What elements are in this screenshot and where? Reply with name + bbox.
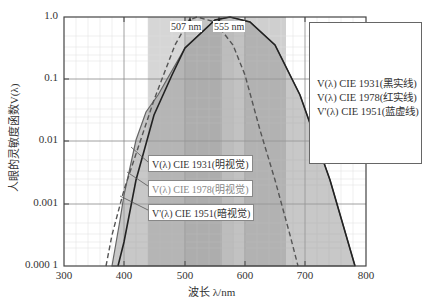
legend-box: V(λ) CIE 1931(黑实线) V(λ) CIE 1978(红实线) V'…	[309, 22, 422, 164]
x-tick-800: 800	[351, 269, 381, 281]
legend-item-1978: V(λ) CIE 1978(红实线)	[317, 89, 417, 104]
curve-label-1931: V(λ) CIE 1931(明视觉)	[148, 155, 253, 172]
x-tick-300: 300	[49, 269, 79, 281]
x-tick-700: 700	[290, 269, 320, 281]
peak-label-507: 507 nm	[170, 21, 202, 32]
y-axis-label: 人眼的灵敏度函数V(λ)	[5, 63, 21, 213]
x-axis-label: 波长 λ/nm	[188, 283, 235, 299]
curve-label-1951: V'(λ) CIE 1951(暗视觉)	[148, 204, 254, 221]
y-tick-1: 1.0	[8, 9, 58, 21]
legend-item-1931: V(λ) CIE 1931(黑实线)	[317, 75, 417, 90]
curve-label-1978: V(λ) CIE 1978(明视觉)	[148, 180, 253, 197]
x-tick-400: 400	[109, 269, 139, 281]
x-tick-600: 600	[230, 269, 260, 281]
x-tick-500: 500	[170, 269, 200, 281]
legend-item-1951: V'(λ) CIE 1951(蓝虚线)	[317, 103, 419, 118]
peak-label-555: 555 nm	[213, 21, 245, 32]
